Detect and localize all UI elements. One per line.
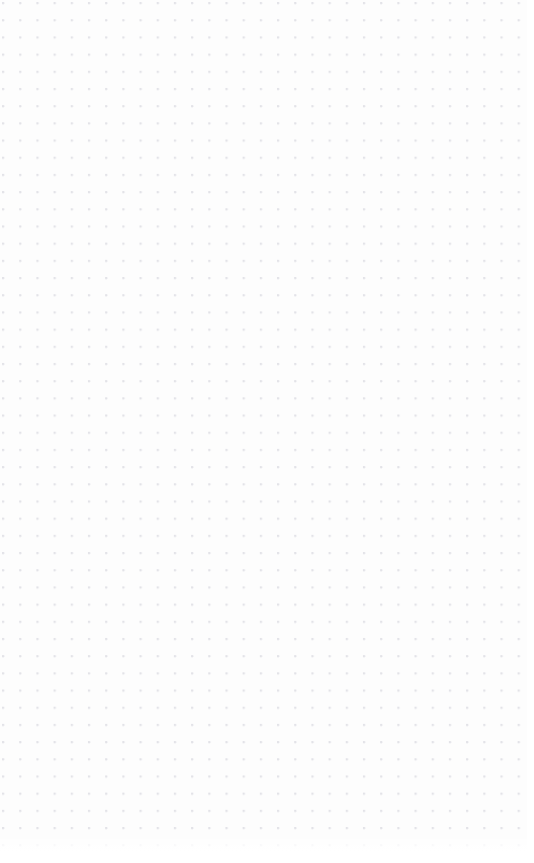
dot-grid-canvas[interactable] (0, 0, 534, 863)
canvas-object-layer (0, 0, 534, 863)
app-root (0, 0, 534, 863)
